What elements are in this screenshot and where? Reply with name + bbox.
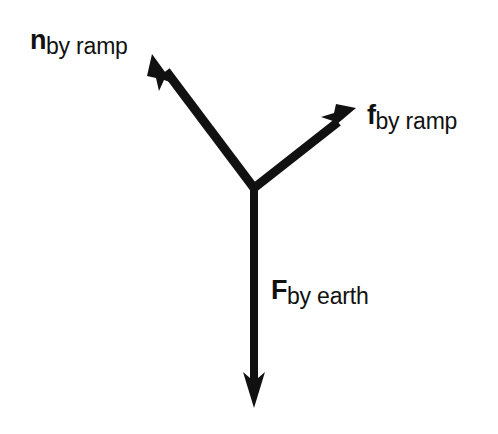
gravity-force-symbol: F <box>271 275 287 305</box>
friction-force-subscript: by ramp <box>376 108 458 134</box>
gravity-force-arrowhead <box>243 366 265 408</box>
free-body-diagram: nby ramp fby ramp Fby earth <box>0 0 498 434</box>
friction-force-label: fby ramp <box>367 102 457 129</box>
gravity-force-subscript: by earth <box>287 283 369 309</box>
normal-force-label: nby ramp <box>30 27 128 54</box>
friction-force-shaft <box>254 122 338 188</box>
force-vectors-group <box>0 0 498 434</box>
gravity-force-label: Fby earth <box>271 277 369 304</box>
friction-force-symbol: f <box>367 100 376 130</box>
normal-force-shaft <box>166 71 254 188</box>
friction-force-vector <box>254 104 356 188</box>
normal-force-symbol: n <box>30 25 46 55</box>
gravity-force-vector <box>243 188 265 408</box>
normal-force-subscript: by ramp <box>46 33 128 59</box>
normal-force-vector <box>147 54 254 188</box>
